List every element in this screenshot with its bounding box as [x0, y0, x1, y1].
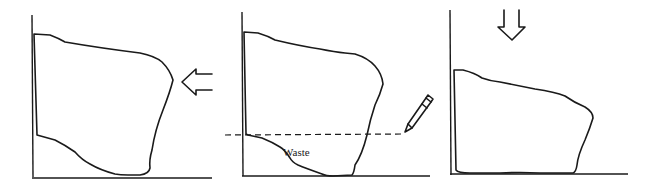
vertical-wall-line — [32, 15, 33, 177]
waste-label: Waste — [283, 146, 310, 158]
irregular-board — [244, 32, 383, 176]
irregular-board — [34, 34, 173, 175]
panel-3 — [450, 10, 628, 175]
scribe-line — [225, 134, 405, 135]
corner-axes — [242, 12, 430, 176]
corner-axes — [450, 10, 628, 175]
vertical-wall-line — [242, 12, 243, 176]
down-arrow-icon — [498, 10, 525, 40]
pencil-icon — [405, 95, 433, 132]
trimmed-board — [454, 70, 593, 173]
vertical-wall-line — [450, 10, 451, 175]
left-arrow-icon — [182, 69, 212, 95]
panel-1 — [32, 15, 212, 178]
scribing-diagram: Waste — [0, 0, 659, 188]
panel-2: Waste — [225, 12, 433, 176]
